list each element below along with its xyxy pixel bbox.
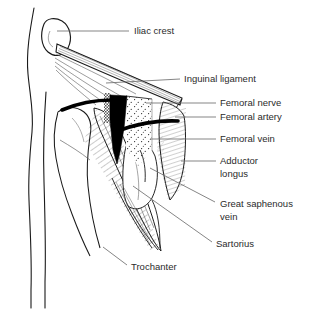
label-femoral-nerve: Femoral nerve <box>220 97 281 108</box>
anatomy-illustration: Iliac crest Inguinal ligament Femoral ne… <box>0 0 316 313</box>
label-trochanter: Trochanter <box>131 261 177 272</box>
label-great-saphenous-vein-line1: Great saphenous <box>220 198 293 209</box>
label-femoral-artery: Femoral artery <box>220 111 282 122</box>
anatomy-figure: Iliac crest Inguinal ligament Femoral ne… <box>0 0 316 313</box>
label-sartorius: Sartorius <box>216 238 254 249</box>
label-inguinal-ligament: Inguinal ligament <box>184 73 256 84</box>
label-iliac-crest: Iliac crest <box>134 25 174 36</box>
label-great-saphenous-vein-line2: vein <box>220 211 237 222</box>
label-femoral-vein: Femoral vein <box>220 133 275 144</box>
label-adductor-longus-line1: Adductor <box>220 155 258 166</box>
label-adductor-longus-line2: longus <box>220 168 248 179</box>
